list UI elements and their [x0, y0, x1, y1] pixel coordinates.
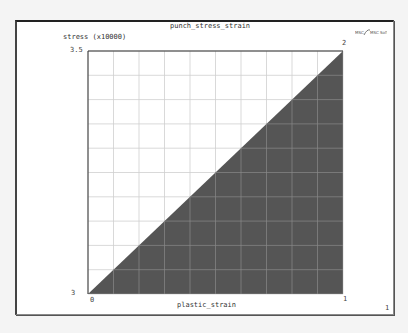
plot-area	[0, 0, 408, 333]
